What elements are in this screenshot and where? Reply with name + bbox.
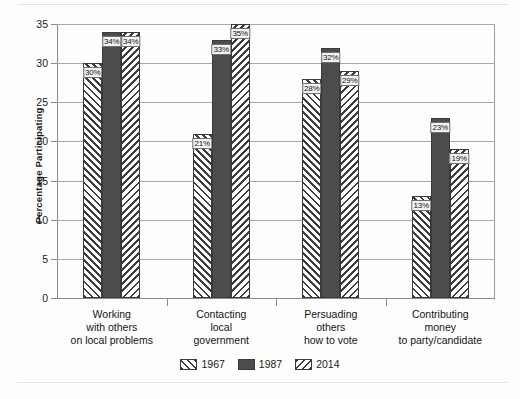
bar-value-label: 30% xyxy=(83,67,102,78)
y-tick-label: 35 xyxy=(24,18,48,30)
legend-label: 2014 xyxy=(316,358,339,370)
legend-swatch-icon-1987 xyxy=(238,359,255,370)
y-tick-mark xyxy=(51,141,57,142)
category-label-3: Persuading others how to vote xyxy=(276,308,386,347)
legend-swatch-icon-2014 xyxy=(295,359,312,370)
bar-value-label: 34% xyxy=(121,36,140,47)
y-tick-mark xyxy=(51,181,57,182)
bar-2014-group-1[interactable]: 34% xyxy=(121,32,140,298)
legend-label: 1987 xyxy=(259,358,282,370)
y-tick-label: 5 xyxy=(24,253,48,265)
legend-label: 1967 xyxy=(201,358,224,370)
y-tick-label: 10 xyxy=(24,214,48,226)
bar-2014-group-2[interactable]: 35% xyxy=(231,24,250,298)
legend-item-1987[interactable]: 1987 xyxy=(238,358,282,370)
bar-value-label: 13% xyxy=(412,200,431,211)
y-tick-mark xyxy=(51,298,57,299)
bar-1967-group-1[interactable]: 30% xyxy=(83,63,102,298)
bar-1987-group-4[interactable]: 23% xyxy=(431,118,450,298)
chart-figure: Percentage Participating 05101520253035 … xyxy=(0,0,520,399)
y-tick-mark xyxy=(51,63,57,64)
y-tick-label: 30 xyxy=(24,57,48,69)
gridline xyxy=(57,24,495,25)
legend-item-1967[interactable]: 1967 xyxy=(180,358,224,370)
bar-value-label: 29% xyxy=(340,75,359,86)
y-tick-label: 20 xyxy=(24,135,48,147)
bar-1987-group-1[interactable]: 34% xyxy=(102,32,121,298)
bar-value-label: 32% xyxy=(321,52,340,63)
y-tick-label: 0 xyxy=(24,292,48,304)
bar-1967-group-4[interactable]: 13% xyxy=(412,196,431,298)
y-axis-line xyxy=(57,24,58,298)
scan-artifact-line-top xyxy=(18,4,508,5)
bar-1967-group-2[interactable]: 21% xyxy=(193,134,212,298)
category-label-2: Contacting local government xyxy=(167,308,277,347)
category-separator-tick xyxy=(167,298,168,306)
plot-area: 05101520253035 30%34%34%21%33%35%28%32%2… xyxy=(57,24,495,298)
y-tick-label: 25 xyxy=(24,96,48,108)
category-separator-tick xyxy=(386,298,387,306)
y-tick-mark xyxy=(51,259,57,260)
y-tick-mark xyxy=(51,102,57,103)
bar-value-label: 35% xyxy=(231,28,250,39)
bar-value-label: 28% xyxy=(302,83,321,94)
legend-item-2014[interactable]: 2014 xyxy=(295,358,339,370)
category-label-1: Working with others on local problems xyxy=(57,308,167,347)
y-tick-label: 15 xyxy=(24,175,48,187)
bar-value-label: 21% xyxy=(193,138,212,149)
bar-value-label: 23% xyxy=(431,122,450,133)
y-tick-mark xyxy=(51,24,57,25)
bar-2014-group-3[interactable]: 29% xyxy=(340,71,359,298)
bar-value-label: 33% xyxy=(212,44,231,55)
bar-1987-group-3[interactable]: 32% xyxy=(321,48,340,299)
bar-value-label: 19% xyxy=(450,153,469,164)
scan-artifact-line-bottom xyxy=(18,382,508,383)
legend-swatch-icon-1967 xyxy=(180,359,197,370)
chart-legend: 196719872014 xyxy=(0,358,520,370)
category-label-4: Contributing money to party/candidate xyxy=(386,308,496,347)
bar-value-label: 34% xyxy=(102,36,121,47)
bar-2014-group-4[interactable]: 19% xyxy=(450,149,469,298)
bar-1967-group-3[interactable]: 28% xyxy=(302,79,321,298)
category-separator-tick xyxy=(276,298,277,306)
y-tick-mark xyxy=(51,220,57,221)
bar-1987-group-2[interactable]: 33% xyxy=(212,40,231,298)
plot-right-border xyxy=(494,24,495,298)
